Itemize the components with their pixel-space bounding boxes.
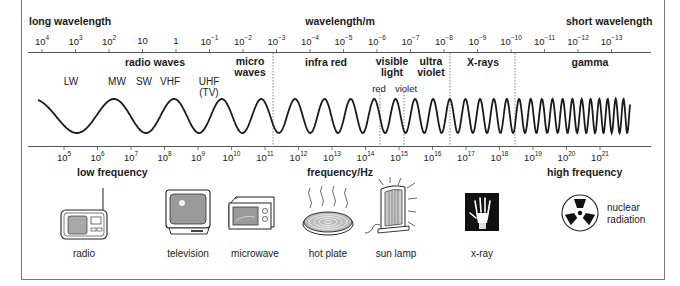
x-ray-icon: [465, 193, 499, 231]
hot-plate-icon: [303, 186, 353, 235]
example-label-television: television: [167, 248, 209, 259]
tick-label: 108: [157, 151, 171, 163]
tick-label: 1010: [223, 151, 241, 163]
example-label-sun-lamp: sun lamp: [376, 248, 417, 259]
nuclear-label: nuclear: [607, 202, 645, 214]
spectrum-diagram: [0, 0, 680, 286]
example-label-nuclear-radiation: nuclear radiation: [607, 202, 645, 226]
tick-label: 109: [191, 151, 205, 163]
tick-label: 1016: [424, 151, 442, 163]
frequency-axis-title: frequency/Hz: [307, 166, 373, 178]
television-icon: [166, 190, 210, 234]
example-label-hot-plate: hot plate: [309, 248, 347, 259]
radio-icon: [61, 188, 107, 239]
sun-lamp-icon: [365, 177, 417, 233]
example-label-radio: radio: [73, 248, 95, 259]
wave-curve: [38, 99, 630, 133]
radiation-icon: [562, 195, 598, 231]
tick-label: 107: [124, 151, 138, 163]
radiation-label: radiation: [607, 214, 645, 226]
tick-label: 106: [90, 151, 104, 163]
tick-label: 105: [57, 151, 71, 163]
example-label-x-ray: x-ray: [471, 248, 493, 259]
tick-label: 1014: [357, 151, 375, 163]
tick-label: 1018: [491, 151, 509, 163]
microwave-icon: [229, 197, 274, 229]
low-frequency-label: low frequency: [77, 166, 148, 178]
tick-label: 1017: [457, 151, 475, 163]
tick-label: 1019: [524, 151, 542, 163]
tick-label: 1011: [256, 151, 273, 163]
example-label-microwave: microwave: [231, 248, 279, 259]
tick-label: 1020: [558, 151, 576, 163]
tick-label: 1013: [323, 151, 341, 163]
tick-label: 1012: [290, 151, 308, 163]
tick-label: 1021: [591, 151, 609, 163]
tick-label: 1015: [390, 151, 408, 163]
high-frequency-label: high frequency: [547, 166, 622, 178]
